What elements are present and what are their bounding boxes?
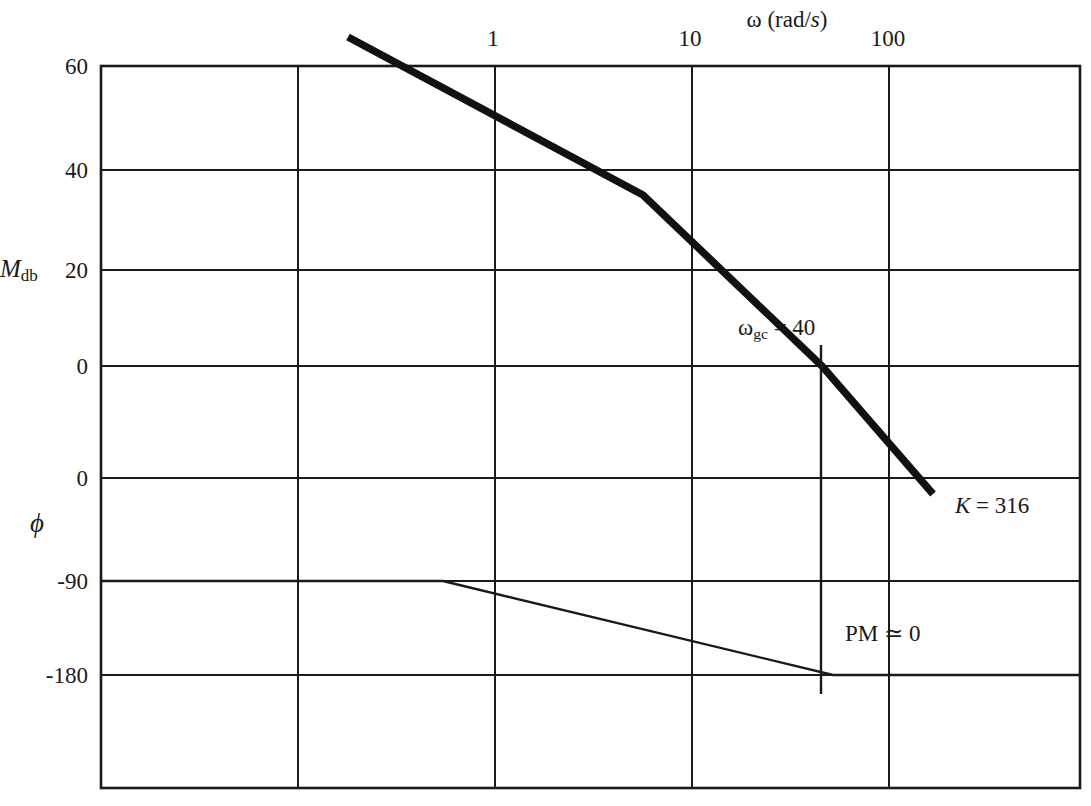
plot-frame — [101, 66, 1080, 788]
x-axis-title-unit: s — [811, 7, 820, 32]
gain-constant-value: = 316 — [970, 493, 1029, 518]
ytick-phase-minus90: -90 — [22, 570, 88, 593]
magnitude-axis-label-main: M — [0, 255, 21, 282]
bode-plot-figure: 60 40 20 0 Mdb 0 -90 -180 ϕ ω (rad/s) 1 … — [0, 0, 1091, 806]
magnitude-axis-label-sub: db — [21, 266, 38, 285]
ytick-mag-0: 0 — [36, 355, 88, 378]
ytick-phase-minus180: -180 — [6, 664, 88, 687]
ytick-mag-20: 20 — [36, 259, 88, 282]
omega-gc-value: = 40 — [768, 315, 815, 340]
ytick-mag-60: 60 — [36, 55, 88, 78]
omega-gc-annotation: ωgc = 40 — [738, 316, 815, 342]
gain-constant-symbol: K — [955, 493, 970, 518]
omega-gc-symbol: ω — [738, 315, 753, 340]
phase-margin-annotation: PM ≃ 0 — [845, 622, 921, 645]
phase-axis-label: ϕ — [30, 510, 44, 537]
ytick-phase-0: 0 — [36, 467, 88, 490]
x-axis-title-main: ω (rad/ — [747, 7, 811, 32]
xtick-10: 10 — [679, 27, 702, 50]
gain-constant-annotation: K = 316 — [955, 494, 1029, 517]
ytick-mag-40: 40 — [36, 159, 88, 182]
x-axis-title-close: ) — [820, 7, 828, 32]
omega-gc-subscript: gc — [753, 325, 768, 342]
magnitude-axis-label: Mdb — [0, 256, 38, 285]
x-axis-title: ω (rad/s) — [747, 8, 828, 31]
bode-plot-canvas — [0, 0, 1091, 806]
xtick-100: 100 — [871, 27, 906, 50]
xtick-1: 1 — [487, 27, 499, 50]
